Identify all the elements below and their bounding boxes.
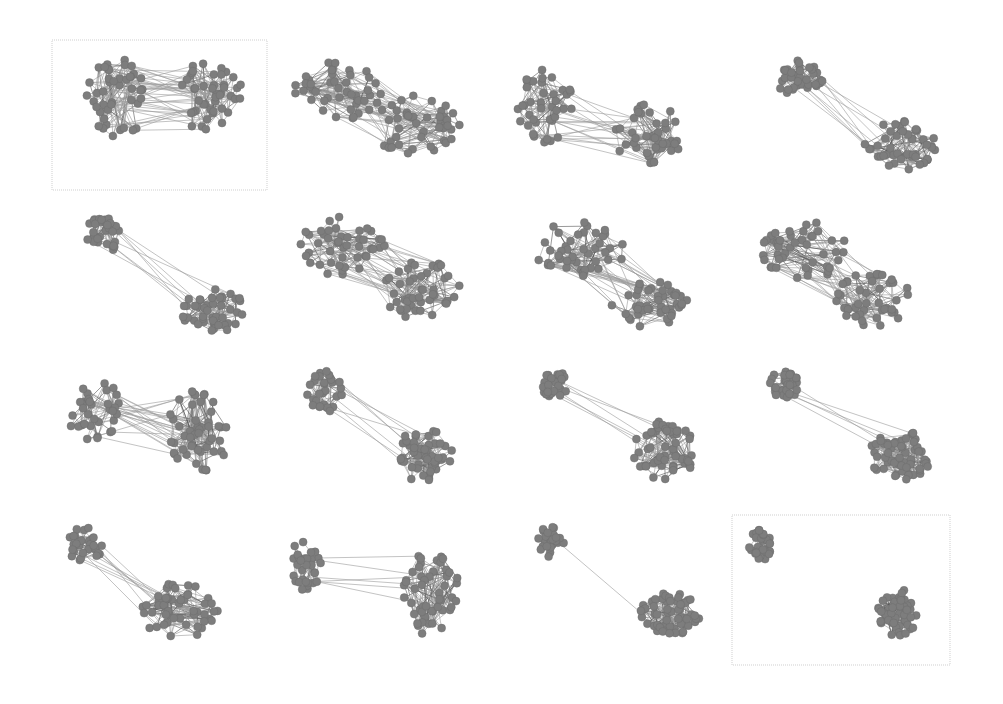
network-graph-figure [0,0,1003,704]
graph-panel-4 [776,57,939,174]
nodes [759,219,912,330]
nodes [84,215,247,335]
graph-panel-9 [67,379,230,474]
graph-panel-15 [535,523,703,637]
panel-frame [52,40,267,190]
graph-panel-5 [84,215,247,335]
graph-panel-1 [52,40,267,190]
nodes [766,368,932,484]
graph-panel-13 [66,524,222,640]
graph-panel-2 [291,59,463,157]
nodes [539,370,695,483]
nodes [745,526,920,639]
graph-panel-16 [732,515,950,665]
graph-panel-8 [759,219,912,330]
nodes [66,524,222,640]
graph-panel-11 [539,370,695,483]
nodes [535,523,703,637]
graph-canvas [0,0,1003,704]
graph-panel-6 [297,213,464,321]
nodes [303,367,455,484]
graph-panel-3 [514,66,682,167]
nodes [290,538,462,637]
graph-panel-14 [290,538,462,637]
graph-panel-7 [535,218,691,330]
graph-panel-12 [766,368,932,484]
nodes [776,57,939,174]
graph-panel-10 [303,367,455,484]
